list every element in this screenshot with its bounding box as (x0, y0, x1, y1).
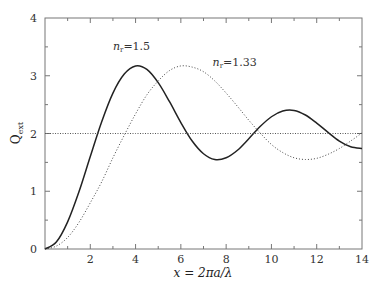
axis-tick-labels: 246810121401234 (30, 12, 369, 266)
x-tick-label: 6 (177, 253, 184, 266)
data-series (45, 66, 362, 249)
y-axis-title-sub: ext (16, 121, 25, 134)
y-axis-title: Qext (9, 121, 25, 144)
x-tick-label: 8 (223, 253, 230, 266)
x-tick-label: 4 (132, 253, 139, 266)
extinction-efficiency-chart: 246810121401234 nr=1.5nr=1.33 x = 2πa/λ … (0, 0, 382, 293)
x-axis-title: x = 2πa/λ (174, 266, 233, 280)
x-tick-label: 12 (310, 253, 324, 266)
x-tick-label: 14 (355, 253, 369, 266)
annotations: nr=1.5nr=1.33 (113, 40, 257, 70)
x-tick-label: 10 (264, 253, 278, 266)
series-line-nr-1-33 (45, 66, 362, 249)
y-tick-label: 3 (30, 70, 37, 83)
series-line-nr-1-5 (45, 66, 362, 249)
y-tick-label: 1 (30, 185, 37, 198)
y-tick-label: 0 (30, 243, 37, 256)
y-tick-label: 2 (30, 128, 37, 141)
x-tick-label: 2 (87, 253, 94, 266)
label-nr-1-33: nr=1.33 (213, 56, 257, 70)
label-nr-1-5: nr=1.5 (113, 40, 150, 54)
y-tick-label: 4 (30, 12, 37, 25)
y-axis-title-main: Q (9, 134, 23, 144)
svg-text:Qext: Qext (9, 121, 25, 144)
